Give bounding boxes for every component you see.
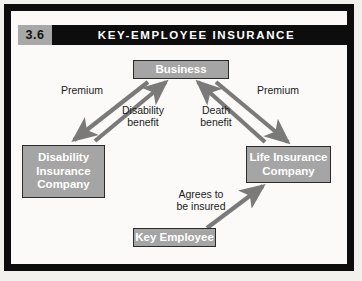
label-death-benefit: Death benefit: [187, 104, 245, 129]
figure-header: 3.6 KEY-EMPLOYEE INSURANCE: [18, 25, 347, 45]
section-number: 3.6: [18, 25, 52, 45]
figure-container: 3.6 KEY-EMPLOYEE INSURANCE Business Disa…: [0, 0, 362, 281]
figure-title: KEY-EMPLOYEE INSURANCE: [52, 25, 347, 45]
label-agrees-to-be-insured: Agrees to be insured: [168, 188, 234, 213]
node-life-insurance-company: Life Insurance Company: [246, 146, 331, 183]
node-disability-insurance-company: Disability Insurance Company: [22, 145, 105, 198]
label-disability-benefit: Disability benefit: [112, 104, 174, 129]
label-premium-right: Premium: [248, 84, 308, 96]
label-premium-left: Premium: [52, 84, 112, 96]
node-business: Business: [133, 60, 229, 79]
node-key-employee: Key Employee: [133, 228, 216, 247]
